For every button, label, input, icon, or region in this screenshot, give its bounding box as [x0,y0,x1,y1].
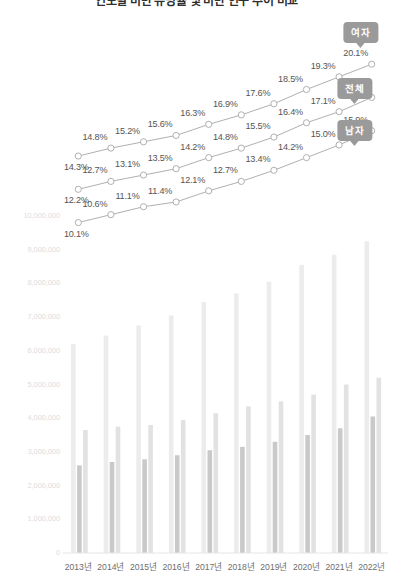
value-label-전체-2016년: 13.5% [148,153,173,163]
marker-전체-2015년 [140,172,146,178]
value-label-여자-2019년: 17.6% [245,88,270,98]
bars-layer [71,241,381,553]
chart-root: 연도별 비만 유병률 및 비만 인구 추이 비교 01,000,0002,000… [0,0,393,575]
marker-전체-2021년 [336,109,342,115]
marker-여자-2013년 [75,153,81,159]
y-tick-6000000: 6,000,000 [0,346,60,355]
bar-남자-2021년 [338,428,343,553]
x-tick-2021년: 2021년 [326,560,353,572]
bar-남자-2018년 [240,447,245,553]
bar-전체-2018년 [234,294,239,553]
marker-여자-2014년 [108,145,114,151]
y-tick-3000000: 3,000,000 [0,447,60,456]
marker-전체-2018년 [238,145,244,151]
value-label-여자-2017년: 16.3% [180,108,205,118]
callout-여자: 여자 [343,22,378,43]
bar-여자-2017년 [214,413,219,553]
y-tick-9000000: 9,000,000 [0,245,60,254]
marker-전체-2014년 [108,178,114,184]
marker-여자-2022년 [369,61,375,67]
line-series-여자 [78,64,371,156]
value-label-남자-2019년: 13.4% [245,154,270,164]
x-tick-2015년: 2015년 [130,560,157,572]
marker-남자-2015년 [140,204,146,210]
bar-남자-2022년 [371,417,376,553]
line-series-전체 [78,97,371,189]
bar-여자-2022년 [377,378,382,553]
y-tick-1000000: 1,000,000 [0,514,60,523]
bar-여자-2018년 [246,406,251,553]
value-label-전체-2021년: 17.1% [311,96,336,106]
bar-전체-2015년 [136,326,141,553]
y-tick-8000000: 8,000,000 [0,278,60,287]
value-label-전체-2015년: 13.1% [115,159,140,169]
x-tick-2022년: 2022년 [358,560,385,572]
value-label-여자-2015년: 15.2% [115,126,140,136]
value-label-남자-2020년: 14.2% [278,142,303,152]
bar-남자-2017년 [208,450,213,553]
bar-전체-2016년 [169,315,174,553]
bar-여자-2021년 [344,385,349,554]
marker-남자-2020년 [303,155,309,161]
x-tick-2020년: 2020년 [293,560,320,572]
value-label-여자-2018년: 16.9% [213,99,238,109]
value-label-남자-2014년: 10.6% [82,199,107,209]
value-label-남자-2018년: 12.7% [213,165,238,175]
y-tick-5000000: 5,000,000 [0,380,60,389]
bar-여자-2013년 [83,430,88,553]
value-label-남자-2016년: 11.4% [148,186,172,196]
bar-전체-2014년 [104,336,109,553]
marker-전체-2017년 [206,155,212,161]
bar-여자-2015년 [148,425,153,553]
lines-layer [75,61,375,226]
bar-전체-2020년 [299,265,304,553]
marker-여자-2018년 [238,112,244,118]
x-tick-2018년: 2018년 [228,560,255,572]
marker-여자-2015년 [140,139,146,145]
value-label-남자-2015년: 11.1% [115,191,139,201]
bar-남자-2014년 [110,462,115,553]
value-label-남자-2021년: 15.0% [311,129,336,139]
value-label-남자-2013년: 10.1% [64,229,89,239]
marker-여자-2020년 [303,86,309,92]
bar-여자-2016년 [181,420,186,553]
y-tick-2000000: 2,000,000 [0,481,60,490]
value-label-여자-2022년: 20.1% [343,48,368,58]
marker-전체-2020년 [303,120,309,126]
value-label-여자-2021년: 19.3% [311,61,336,71]
value-label-남자-2017년: 12.1% [180,175,205,185]
bar-전체-2022년 [365,241,370,553]
callout-전체: 전체 [337,78,372,99]
marker-여자-2019년 [271,101,277,107]
y-tick-10000000: 10,000,000 [0,211,60,220]
bar-전체-2017년 [202,302,207,553]
marker-남자-2019년 [271,167,277,173]
line-series-남자 [78,131,371,223]
value-label-여자-2014년: 14.8% [82,132,107,142]
marker-전체-2013년 [75,186,81,192]
marker-남자-2016년 [173,199,179,205]
marker-남자-2021년 [336,142,342,148]
bar-여자-2014년 [116,427,121,553]
bar-남자-2020년 [305,435,310,553]
marker-남자-2017년 [206,188,212,194]
bar-남자-2013년 [77,465,82,553]
bar-남자-2016년 [175,455,180,553]
marker-전체-2016년 [173,166,179,172]
bar-여자-2020년 [311,395,316,553]
y-tick-7000000: 7,000,000 [0,312,60,321]
y-tick-0: 0 [0,548,60,557]
bar-전체-2021년 [332,255,337,553]
bar-여자-2019년 [279,401,284,553]
y-tick-4000000: 4,000,000 [0,413,60,422]
marker-전체-2019년 [271,134,277,140]
bar-전체-2013년 [71,344,76,553]
value-label-여자-2020년: 18.5% [278,74,303,84]
x-tick-2013년: 2013년 [65,560,92,572]
marker-여자-2016년 [173,132,179,138]
x-tick-2016년: 2016년 [163,560,190,572]
value-label-전체-2020년: 16.4% [278,107,303,117]
value-label-전체-2014년: 12.7% [82,165,107,175]
marker-여자-2017년 [206,121,212,127]
value-label-전체-2017년: 14.2% [180,142,205,152]
